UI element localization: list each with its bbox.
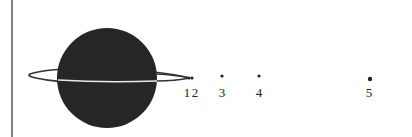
moon-4-dot	[257, 74, 260, 77]
moon-3-label: 3	[219, 85, 226, 100]
planet-body	[57, 28, 157, 128]
planet-moons-diagram: 12345	[0, 0, 412, 137]
moon-4-label: 4	[256, 85, 263, 100]
moons-group: 12345	[184, 74, 373, 100]
moon-3-dot	[220, 74, 223, 77]
moon-5-dot	[368, 77, 372, 81]
moon-1-dot	[187, 76, 190, 79]
moon-5-label: 5	[366, 85, 373, 100]
moon-2-dot	[190, 76, 193, 79]
planet-ring-right	[157, 74, 190, 81]
moon-2-label: 2	[192, 85, 199, 100]
moon-1-label: 1	[184, 85, 191, 100]
